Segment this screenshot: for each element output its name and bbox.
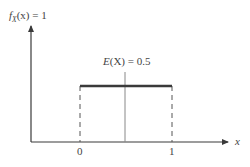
mean-annotation: E(X) = 0.5 <box>102 55 151 68</box>
uniform-density-chart: fX(x) = 1 E(X) = 0.5 0 1 x <box>0 0 250 167</box>
x-tick-1: 1 <box>169 145 175 157</box>
x-tick-0: 0 <box>77 145 83 157</box>
y-axis-label: fX(x) = 1 <box>9 9 47 24</box>
x-axis-label: x <box>234 135 240 147</box>
